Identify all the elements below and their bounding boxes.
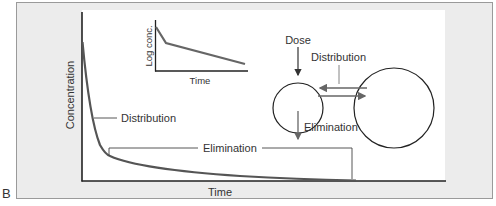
panel-letter: B <box>2 186 11 201</box>
dose-label: Dose <box>285 34 311 46</box>
inset-plot <box>155 20 248 72</box>
distribution-label: Distribution <box>121 112 176 124</box>
peripheral-compartment <box>354 68 434 148</box>
compartment-distribution-label: Distribution <box>311 51 366 63</box>
inset-log-curve <box>156 27 245 64</box>
inset-y-label: Log conc. <box>143 25 154 66</box>
x-axis-label: Time <box>208 186 232 198</box>
elimination-phase-label: Elimination <box>203 142 257 154</box>
compartment-elimination-label: Elimination <box>304 121 358 133</box>
main-axes <box>82 12 447 182</box>
y-axis-label: Concentration <box>64 61 76 130</box>
diagram-canvas: Distribution Elimination Time Concentrat… <box>0 0 496 206</box>
inset-x-label: Time <box>190 75 211 86</box>
